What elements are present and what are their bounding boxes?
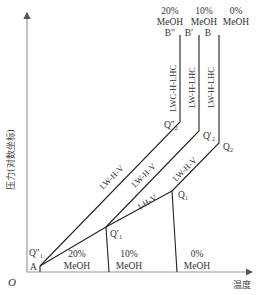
top-label-10-pct: 10% (195, 6, 213, 16)
label-diag-10: LW-H-V (129, 160, 158, 189)
label-ice: I-H-V (136, 192, 160, 212)
label-vertical-20: LWC-H-LHC (168, 65, 178, 112)
diagram-canvas: O 温度 压力(对数坐标) 20% MeOH B″ 10% MeOH B′ 0%… (0, 0, 257, 295)
top-label-20-name: MeOH (157, 17, 184, 27)
y-axis-label: 压力(对数坐标) (5, 129, 16, 190)
phase-diagram: O 温度 压力(对数坐标) 20% MeOH B″ 10% MeOH B′ 0%… (0, 0, 257, 295)
point-B-dprime: B″ (165, 28, 175, 38)
point-B-prime: B′ (185, 28, 193, 38)
bottom-label-10-name: MeOH (116, 261, 143, 271)
point-B: B (205, 28, 211, 38)
line-Q1-down (172, 191, 177, 272)
point-Q1: Q1 (178, 190, 188, 201)
top-label-0-name: MeOH (223, 17, 250, 27)
label-diag-0: LW-H-V (170, 154, 199, 183)
point-Q2-dprime: Q″2 (164, 120, 178, 131)
label-vertical-10: LW-H-LHC (187, 67, 197, 108)
point-Q2-prime: Q′2 (203, 131, 215, 142)
bottom-label-0-pct: 0% (191, 249, 204, 259)
line-Q1p-down (106, 227, 109, 272)
top-label-20-pct: 20% (161, 6, 179, 16)
label-diag-20: LW-H-V (97, 162, 126, 191)
label-vertical-0: LW-H-LHC (206, 67, 216, 108)
bottom-label-20-name: MeOH (64, 261, 91, 271)
point-Q1-prime: Q′1 (110, 229, 122, 240)
origin-label: O (8, 276, 16, 288)
bottom-label-0-name: MeOH (184, 261, 211, 271)
x-axis-label: 温度 (233, 279, 251, 290)
point-A: A (30, 262, 37, 272)
point-Q1-dprime: Q″1 (29, 248, 43, 259)
point-Q2: Q2 (223, 142, 233, 153)
bottom-label-10-pct: 10% (120, 249, 138, 259)
top-label-0-pct: 0% (230, 6, 243, 16)
bottom-label-20-pct: 20% (68, 249, 86, 259)
top-label-10-name: MeOH (191, 17, 218, 27)
